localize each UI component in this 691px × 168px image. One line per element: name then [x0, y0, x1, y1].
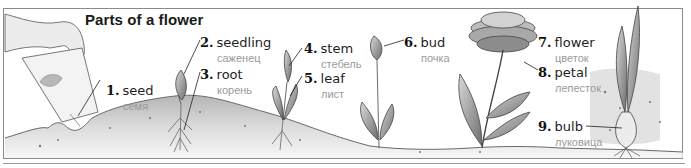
diagram-title: Parts of a flower [85, 11, 203, 28]
label-english: stem [321, 41, 354, 56]
label-russian: луковица [555, 137, 602, 148]
label-bulb: 9.bulb луковица [538, 118, 602, 148]
flowering-plant [459, 12, 537, 148]
label-number: 4. [304, 41, 318, 56]
label-number: 3. [200, 67, 214, 82]
label-russian: семя [123, 101, 154, 112]
label-number: 9. [538, 119, 552, 134]
label-flower: 7.flower цветок [538, 34, 595, 64]
label-english: flower [555, 35, 595, 50]
label-seedling: 2.seedling саженец [200, 34, 271, 64]
label-english: leaf [321, 71, 345, 86]
label-english: seed [123, 83, 154, 98]
label-english: root [217, 67, 243, 82]
label-root: 3.root корень [200, 66, 252, 96]
label-stem: 4.stem стебель [304, 40, 362, 70]
hand-with-seed-packet [5, 14, 98, 126]
label-number: 1. [106, 83, 120, 98]
label-english: petal [555, 65, 588, 80]
label-russian: корень [217, 85, 252, 96]
label-number: 2. [200, 35, 214, 50]
label-number: 7. [538, 35, 552, 50]
label-russian: цветок [555, 53, 595, 64]
label-bud: 6.bud почка [404, 34, 450, 64]
label-leaf: 5.leaf лист [304, 70, 345, 100]
label-english: bulb [555, 119, 583, 134]
label-russian: саженец [217, 53, 271, 64]
label-russian: почка [421, 53, 450, 64]
label-russian: лепесток [555, 83, 601, 94]
bud-plant [361, 36, 394, 148]
label-russian: стебель [321, 59, 362, 70]
label-petal: 8.petal лепесток [538, 64, 601, 94]
label-number: 8. [538, 65, 552, 80]
label-number: 6. [404, 35, 418, 50]
label-english: seedling [217, 35, 272, 50]
label-russian: лист [321, 89, 345, 100]
label-seed: 1.seed семя [106, 82, 154, 112]
label-english: bud [421, 35, 446, 50]
label-number: 5. [304, 71, 318, 86]
